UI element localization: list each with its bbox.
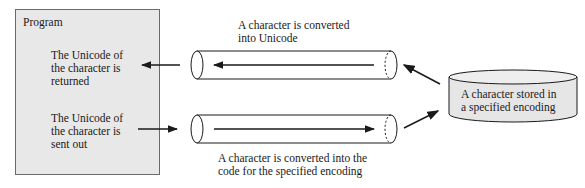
arrow-storage-to-pipe-icon bbox=[404, 65, 440, 84]
arrow-pipe-to-storage-icon bbox=[404, 111, 438, 128]
pipe-to-encoding bbox=[191, 115, 397, 143]
storage-label: A character stored in a specified encodi… bbox=[461, 88, 556, 114]
pipe-to-unicode bbox=[191, 51, 397, 79]
